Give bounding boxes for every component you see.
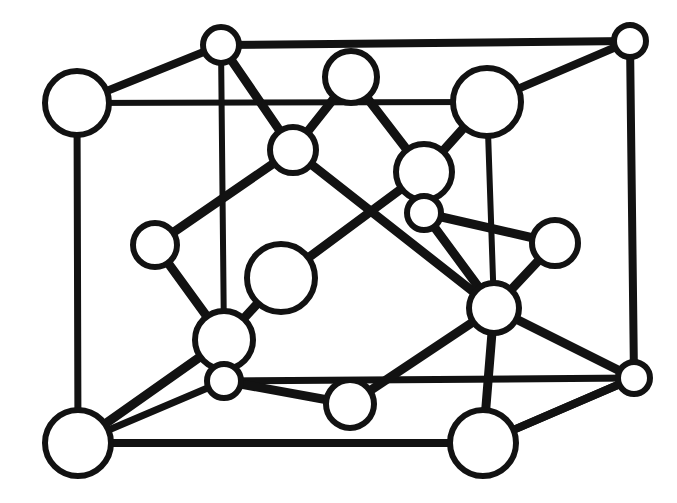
corner-atom-front-top-left	[45, 71, 109, 135]
interior-atom-upper-left	[270, 127, 316, 173]
corner-atom-back-top-right	[614, 25, 646, 57]
face-atom-top-right-large	[453, 68, 521, 136]
interior-atom-center-left-large	[247, 244, 315, 312]
crystal-structure-canvas	[0, 0, 677, 503]
corner-atom-back-top-left	[203, 27, 239, 63]
corner-atom-front-bottom-left	[45, 410, 111, 476]
interior-atom-lower-left-small	[207, 364, 241, 398]
cell-edge-left-vertical	[77, 103, 78, 443]
crystal-structure-figure	[0, 0, 677, 503]
interior-atom-lower-left	[195, 311, 253, 369]
edge-atom-mid-right	[532, 220, 578, 266]
face-atom-bottom-center	[326, 380, 374, 428]
edge-atom-mid-left	[133, 223, 177, 267]
interior-atom-center-small	[407, 196, 441, 230]
cell-edge-bottom-back	[224, 378, 634, 381]
corner-atom-back-bottom-right	[618, 362, 650, 394]
corner-atom-front-bottom-right	[450, 410, 516, 476]
cell-edge-top-back	[221, 41, 630, 45]
cell-edge-top-front	[77, 102, 487, 103]
interior-atom-center-upper	[396, 144, 452, 200]
face-atom-top-center	[325, 51, 377, 103]
interior-atom-center-right	[469, 283, 519, 333]
cell-edge-back-right-vert	[630, 41, 634, 378]
